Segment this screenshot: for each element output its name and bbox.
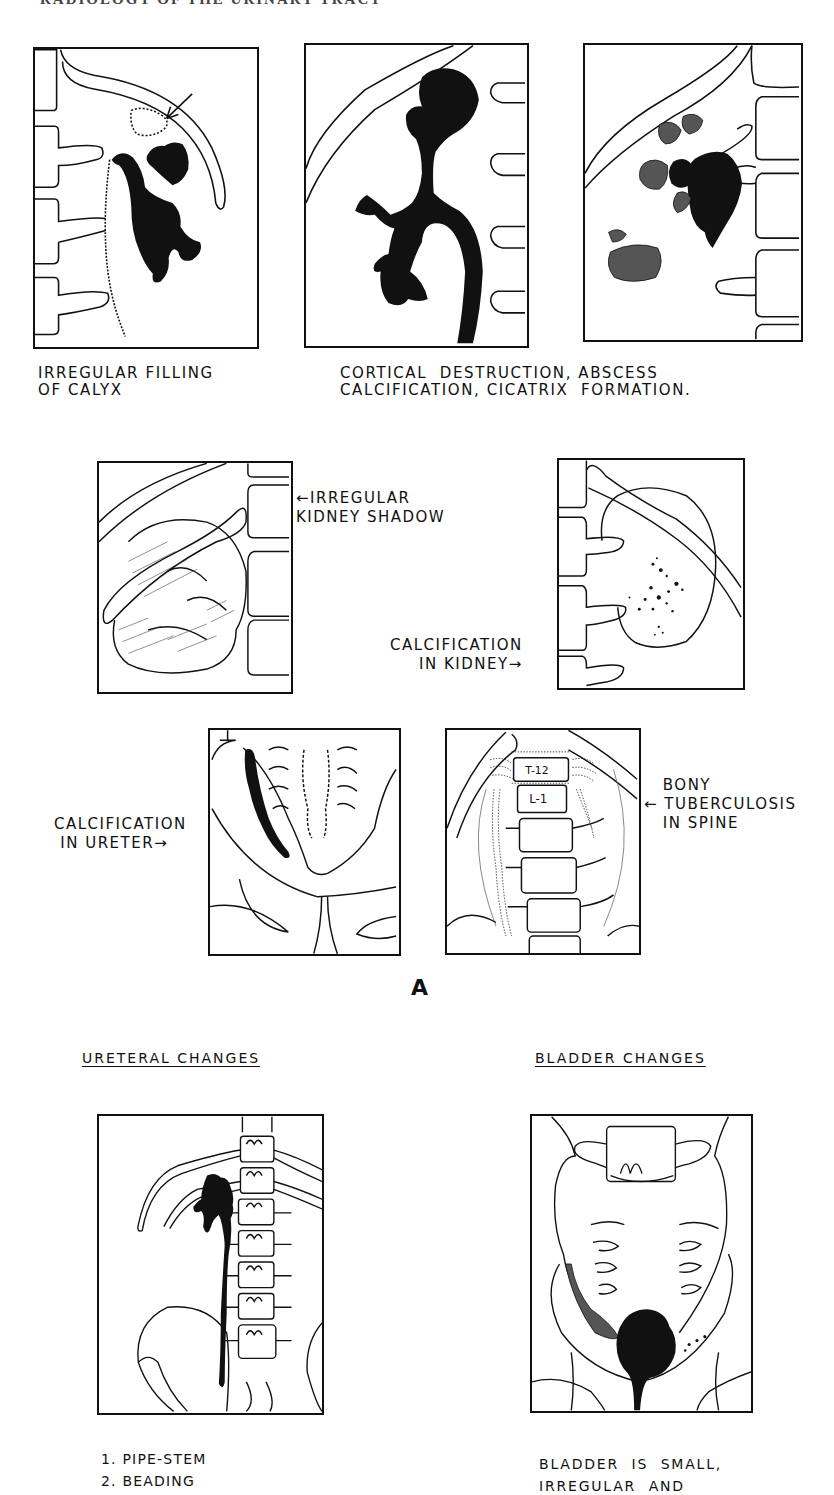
kidney-shadow-label-line2: KIDNEY SHADOW <box>296 508 445 526</box>
ureter-calc-label-line1: CALCIFICATION <box>54 815 187 833</box>
panel-calcification-in-ureter <box>208 728 401 956</box>
label-calcification-in-ureter: CALCIFICATION IN URETER→ <box>54 815 187 853</box>
cortical-destruction-drawing <box>306 45 527 346</box>
kidney-shadow-label-line1: IRREGULAR <box>310 489 410 507</box>
caption-calyx-line2: OF CALYX <box>38 381 123 399</box>
kidney-calc-label-line1: CALCIFICATION <box>390 636 523 654</box>
spine-label-line3: IN SPINE <box>663 814 739 832</box>
kidney-calcification-drawing <box>559 460 743 688</box>
spine-label-line2: TUBERCULOSIS <box>664 795 796 813</box>
figure-label: A <box>411 975 428 1000</box>
ureteral-item-1: 1. PIPE-STEM <box>101 1451 206 1467</box>
ureteral-changes-drawing <box>99 1116 322 1413</box>
spine-tuberculosis-drawing: T-12 L-1 <box>447 730 639 953</box>
label-irregular-kidney-shadow: ←IRREGULAR KIDNEY SHADOW <box>296 489 445 527</box>
label-bony-tuberculosis: BONY ← TUBERCULOSIS IN SPINE <box>644 776 797 833</box>
caption-cortical-destruction: CORTICAL DESTRUCTION, ABSCESS CALCIFICAT… <box>340 365 691 399</box>
kidney-shadow-drawing <box>99 463 291 692</box>
vertebra-t12-label: T-12 <box>524 764 548 777</box>
ureter-calc-label-line2: IN URETER <box>60 834 154 852</box>
panel-bony-tuberculosis-spine: T-12 L-1 <box>445 728 641 955</box>
caption-cortical-line2: CALCIFICATION, CICATRIX FORMATION. <box>340 381 691 399</box>
caption-cortical-line1: CORTICAL DESTRUCTION, ABSCESS <box>340 364 658 382</box>
page-header-text: RADIOLOGY OF THE URINARY TRACT <box>40 0 382 7</box>
section-title-bladder-changes: BLADDER CHANGES <box>535 1050 706 1066</box>
vertebra-l1-label: L-1 <box>529 792 547 806</box>
abscess-calcification-drawing <box>585 45 801 340</box>
caption-calyx: IRREGULAR FILLING OF CALYX <box>38 365 214 399</box>
bladder-changes-caption: BLADDER IS SMALL, IRREGULAR AND <box>539 1453 722 1495</box>
page-header: RADIOLOGY OF THE URINARY TRACT <box>40 0 382 8</box>
ureteral-item-2: 2. BEADING <box>101 1473 195 1489</box>
arrow-right-icon: → <box>154 834 168 852</box>
caption-calyx-line1: IRREGULAR FILLING <box>38 364 214 382</box>
panel-ureteral-changes <box>97 1114 324 1415</box>
bladder-caption-line2: IRREGULAR AND <box>539 1478 685 1494</box>
arrow-left-icon: ← <box>296 489 310 507</box>
panel-irregular-calyx-filling <box>33 47 259 349</box>
bladder-changes-drawing <box>532 1116 751 1411</box>
ureteral-changes-list: 1. PIPE-STEM 2. BEADING <box>101 1448 206 1492</box>
section-title-ureteral-changes: URETERAL CHANGES <box>82 1050 260 1066</box>
kidney-calc-label-line2: IN KIDNEY <box>419 655 509 673</box>
panel-cortical-destruction <box>304 43 529 348</box>
panel-abscess-calcification <box>583 43 803 342</box>
panel-bladder-changes <box>530 1114 753 1413</box>
bladder-caption-line1: BLADDER IS SMALL, <box>539 1456 722 1472</box>
arrow-right-icon: → <box>509 655 523 673</box>
calyx-drawing <box>35 49 257 347</box>
arrow-left-icon: ← <box>644 795 658 813</box>
spine-label-line1: BONY <box>663 776 711 794</box>
panel-irregular-kidney-shadow <box>97 461 293 694</box>
ureter-calcification-drawing <box>210 730 399 954</box>
panel-calcification-in-kidney <box>557 458 745 690</box>
label-calcification-in-kidney: CALCIFICATION IN KIDNEY→ <box>390 636 523 674</box>
